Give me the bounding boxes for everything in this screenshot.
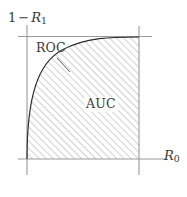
roc-curve-label: ROC — [36, 42, 66, 55]
x-axis-label-symbol: R — [164, 148, 174, 163]
y-axis-label-symbol: R — [31, 10, 41, 25]
x-axis-label: R0 — [164, 149, 180, 164]
roc-auc-figure: 1−R1 R0 ROC AUC — [0, 0, 187, 197]
y-axis-label-subscript: 1 — [41, 15, 47, 26]
x-axis-label-subscript: 0 — [174, 153, 180, 164]
y-axis-label-minus: − — [16, 10, 31, 25]
auc-region-label: AUC — [84, 97, 118, 112]
y-axis-label: 1−R1 — [8, 11, 47, 26]
